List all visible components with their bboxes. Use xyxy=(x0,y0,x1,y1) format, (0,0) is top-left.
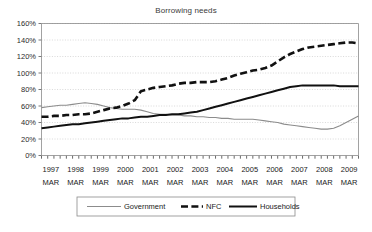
legend-label-nfc: NFC xyxy=(206,202,222,211)
x-axis-tick-labels: 1997MAR1998MAR1999MAR2000MAR2001MAR2002M… xyxy=(42,165,358,187)
x-axis-month-label: MAR xyxy=(192,178,209,187)
x-axis-year-label: 2005 xyxy=(241,165,258,174)
x-axis-month-label: MAR xyxy=(42,178,59,187)
series-line-government xyxy=(42,103,359,129)
gridlines xyxy=(39,24,359,156)
series-line-nfc xyxy=(42,42,359,116)
x-axis-month-label: MAR xyxy=(117,178,134,187)
y-axis-tick-label: 20% xyxy=(21,135,36,144)
x-axis-month-label: MAR xyxy=(142,178,159,187)
series-line-households xyxy=(42,85,359,128)
x-axis-month-label: MAR xyxy=(266,178,283,187)
legend-label-government: Government xyxy=(124,202,166,211)
x-axis-year-label: 2004 xyxy=(217,165,234,174)
x-axis-month-label: MAR xyxy=(167,178,184,187)
x-axis-month-label: MAR xyxy=(241,178,258,187)
x-axis-year-label: 2000 xyxy=(117,165,134,174)
y-axis-tick-label: 100% xyxy=(17,69,37,78)
chart-container: Borrowing needs 0%20%40%60%80%100%120%14… xyxy=(0,0,372,232)
x-axis-year-label: 2007 xyxy=(291,165,308,174)
y-axis-tick-label: 60% xyxy=(21,102,36,111)
x-axis-year-label: 1999 xyxy=(92,165,109,174)
x-axis-year-label: 2008 xyxy=(316,165,333,174)
y-axis-tick-labels: 0%20%40%60%80%100%120%140%160% xyxy=(17,19,37,160)
x-axis-year-label: 2003 xyxy=(192,165,209,174)
y-axis-tick-label: 40% xyxy=(21,118,36,127)
chart-legend: GovernmentNFCHouseholds xyxy=(77,197,300,216)
y-axis-tick-label: 120% xyxy=(17,52,37,61)
chart-plot: 0%20%40%60%80%100%120%140%160% 1997MAR19… xyxy=(0,0,372,232)
x-axis-month-label: MAR xyxy=(92,178,109,187)
x-axis-month-label: MAR xyxy=(316,178,333,187)
x-axis-year-label: 2009 xyxy=(341,165,358,174)
x-axis-year-label: 2006 xyxy=(266,165,283,174)
x-axis-year-label: 2002 xyxy=(167,165,184,174)
x-axis-year-label: 1997 xyxy=(42,165,59,174)
x-axis-month-label: MAR xyxy=(341,178,358,187)
x-axis-month-label: MAR xyxy=(217,178,234,187)
y-axis-tick-label: 160% xyxy=(17,19,37,28)
x-axis-ticks xyxy=(42,156,359,159)
x-axis-year-label: 1998 xyxy=(67,165,84,174)
y-axis-tick-label: 140% xyxy=(17,36,37,45)
x-axis-month-label: MAR xyxy=(67,178,84,187)
data-series-layer xyxy=(42,42,359,129)
y-axis-tick-label: 0% xyxy=(25,151,36,160)
y-axis-tick-label: 80% xyxy=(21,85,36,94)
legend-label-households: Households xyxy=(260,202,300,211)
x-axis-month-label: MAR xyxy=(291,178,308,187)
x-axis-year-label: 2001 xyxy=(142,165,159,174)
